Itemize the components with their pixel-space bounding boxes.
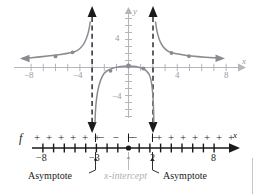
y-axis [125,7,132,118]
sign-symbol: + [70,131,76,143]
sign-symbol: + [228,131,234,143]
annotation-asymptote-right: Asymptote [163,170,207,181]
curve-branch-middle [95,64,154,122]
graph-xtick-label-neg4: −4 [73,70,83,80]
sign-symbol: + [168,131,174,143]
figure-root: x y −8 −4 4 8 4 −4 f x ++++++−−−−−++++++… [0,0,257,194]
graph-ytick-label-neg4: −4 [112,91,122,101]
sign-chart-tick-label-neg8: −8 [36,152,47,163]
sign-symbol: + [58,131,64,143]
annotation-caret-intercept [127,156,130,159]
sign-symbol: − [98,131,104,143]
annotation-asymptote-left: Asymptote [28,170,72,181]
curve-branch-left [20,22,90,62]
annotation-carets [94,157,154,160]
graph-xtick-label-4: 4 [175,70,180,80]
sign-symbol: + [204,131,210,143]
curve-branch-right [156,22,226,62]
sign-symbol: + [156,131,162,143]
sign-chart-function-label: f [19,131,22,146]
sign-chart-tick-label-8: 8 [211,152,216,163]
graph-ytick-label-4: 4 [115,33,120,43]
sign-symbol: − [113,131,119,143]
annotation-x-intercept: x-intercept [104,170,147,181]
graph-y-axis-label: y [133,6,137,16]
sign-symbol: + [180,131,186,143]
sign-symbol: + [82,131,88,143]
graph-canvas [0,0,257,194]
sign-symbol: + [46,131,52,143]
sign-chart-root-dot [126,145,131,150]
sign-symbol: + [192,131,198,143]
sign-chart-tick-label-neg3: −3 [89,152,100,163]
sign-symbol: − [131,131,137,143]
cartesian-graph [14,6,246,133]
sign-chart-tick-label-2: 2 [150,152,155,163]
sign-symbol: + [216,131,222,143]
sign-symbol: + [34,131,40,143]
graph-xtick-label-8: 8 [224,70,229,80]
graph-x-axis-label: x [242,56,246,66]
graph-xtick-label-neg8: −8 [24,70,34,80]
